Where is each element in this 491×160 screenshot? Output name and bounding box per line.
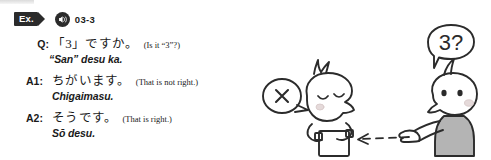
speaker-label-a1: A1:: [26, 75, 52, 87]
dialogue-entry-answer-1: A1: ちがいます。 (That is not right.) Chigaima…: [26, 70, 286, 102]
right-character: [399, 59, 477, 156]
scan-edge-artifact: [0, 0, 34, 4]
japanese-line-a2: そうです。: [52, 107, 118, 126]
dialogue-entry-answer-2: A2: そうです。 (That is right.) Sō desu.: [26, 107, 286, 139]
english-gloss-q: (Is it “3”?): [144, 40, 180, 50]
speaker-icon[interactable]: [55, 12, 70, 27]
speaker-label-q: Q:: [26, 38, 52, 50]
dialogue-block: Q: 「3」ですか。 (Is it “3”?) “San” desu ka. A…: [26, 33, 286, 144]
speaker-label-a2: A2:: [26, 112, 52, 124]
english-gloss-a1: (That is not right.): [136, 77, 198, 87]
romaji-line-a1: Chigaimasu.: [26, 90, 286, 102]
japanese-line-a1: ちがいます。: [52, 70, 131, 89]
dialogue-entry-question: Q: 「3」ですか。 (Is it “3”?) “San” desu ka.: [26, 33, 286, 65]
romaji-line-q: “San” desu ka.: [26, 53, 286, 65]
english-gloss-a2: (That is right.): [123, 114, 172, 124]
bracket-open: 「: [52, 36, 65, 51]
illustration-two-characters: 3?: [258, 20, 491, 160]
example-tag: Ex.: [14, 12, 38, 26]
audio-track-number: 03-3: [75, 14, 95, 25]
romaji-line-a2: Sō desu.: [26, 127, 286, 139]
japanese-line-q: 「3」ですか。: [52, 33, 139, 52]
bracket-close-and-rest: 」ですか。: [72, 36, 139, 51]
header: Ex. 03-3: [14, 11, 95, 27]
left-character: [306, 60, 354, 156]
question-bubble-text: 3?: [439, 30, 463, 55]
negation-speech-bubble: [263, 79, 308, 113]
